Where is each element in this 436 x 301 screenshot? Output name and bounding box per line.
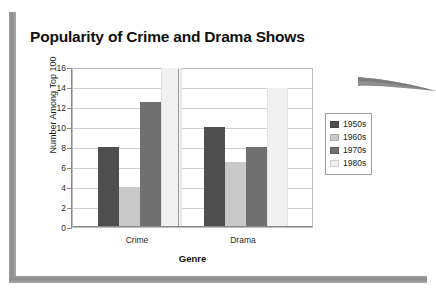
legend-label-1980s: 1980s (343, 159, 366, 168)
y-tick-mark (67, 208, 71, 209)
category-divider (178, 69, 179, 227)
bar-crime-1950s[interactable] (98, 147, 119, 227)
plot-area (72, 68, 313, 228)
bar-drama-1970s[interactable] (246, 147, 267, 227)
y-axis-title: Number Among Top 100 (48, 25, 58, 185)
y-tick-mark (67, 148, 71, 149)
y-tick-mark (67, 228, 71, 229)
legend-swatch-1970s-icon (330, 147, 339, 154)
bar-drama-1980s[interactable] (267, 88, 288, 227)
legend-item-1980s[interactable]: 1980s (330, 157, 366, 170)
legend-label-1950s: 1950s (343, 120, 366, 129)
legend-item-1970s[interactable]: 1970s (330, 144, 366, 157)
bar-drama-1960s[interactable] (225, 162, 246, 227)
y-tick-label: 6 (61, 164, 66, 173)
chart-title: Popularity of Crime and Drama Shows (30, 28, 305, 46)
x-axis-baseline (73, 226, 312, 227)
bar-drama-1950s[interactable] (204, 127, 225, 227)
y-tick-mark (67, 108, 71, 109)
x-category-label-drama: Drama (213, 236, 273, 245)
legend-item-1950s[interactable]: 1950s (330, 118, 366, 131)
bar-crime-1970s[interactable] (140, 102, 161, 227)
legend-swatch-1950s-icon (330, 121, 339, 128)
x-category-label-crime: Crime (107, 236, 167, 245)
y-tick-mark (67, 88, 71, 89)
y-tick-mark (67, 68, 71, 69)
y-tick-label: 4 (61, 184, 66, 193)
legend-item-1960s[interactable]: 1960s (330, 131, 366, 144)
y-tick-mark (67, 188, 71, 189)
legend-label-1970s: 1970s (343, 146, 366, 155)
legend-swatch-1960s-icon (330, 134, 339, 141)
slide-canvas: Popularity of Crime and Drama Shows 16 1… (0, 0, 436, 301)
y-tick-label: 8 (61, 144, 66, 153)
y-tick-mark (67, 168, 71, 169)
bar-crime-1960s[interactable] (119, 187, 140, 227)
legend-label-1960s: 1960s (343, 133, 366, 142)
y-tick-label: 0 (61, 224, 66, 233)
y-tick-mark (67, 128, 71, 129)
y-tick-label: 2 (61, 204, 66, 213)
decorative-frame-left-bar (9, 12, 16, 283)
chart-legend: 1950s 1960s 1970s 1980s (325, 113, 372, 175)
x-axis-title: Genre (72, 253, 313, 264)
decorative-swoosh-shape (358, 76, 436, 98)
legend-swatch-1980s-icon (330, 160, 339, 167)
decorative-frame-bottom-bar (9, 276, 427, 283)
